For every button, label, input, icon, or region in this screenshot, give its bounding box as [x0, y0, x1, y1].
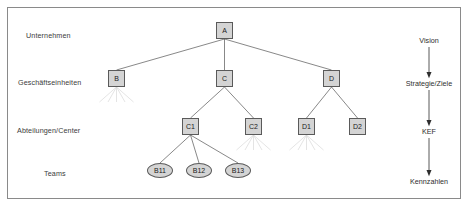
node-c1[interactable]: C1 [182, 118, 199, 135]
node-c2[interactable]: C2 [245, 118, 262, 135]
level-label-geschaeftseinheiten: Geschäftseinheiten [18, 78, 81, 87]
node-b11[interactable]: B11 [147, 163, 173, 178]
level-label-teams: Teams [44, 169, 66, 178]
node-c[interactable]: C [216, 70, 233, 87]
flow-step-strategie[interactable]: Strategie/Ziele [406, 79, 452, 88]
node-b12[interactable]: B12 [186, 163, 212, 178]
figure-caption [18, 205, 318, 214]
node-b13[interactable]: B13 [225, 163, 251, 178]
diagram-canvas: UnternehmenGeschäftseinheitenAbteilungen… [0, 0, 469, 215]
node-d1[interactable]: D1 [298, 118, 315, 135]
node-d[interactable]: D [323, 70, 340, 87]
flow-step-kef[interactable]: KEF [422, 127, 436, 136]
level-label-unternehmen: Unternehmen [26, 31, 71, 40]
node-d2[interactable]: D2 [349, 118, 366, 135]
flow-step-vision[interactable]: Vision [419, 36, 438, 45]
node-b[interactable]: B [108, 70, 125, 87]
flow-step-kennzahlen[interactable]: Kennzahlen [410, 177, 448, 186]
level-label-abteilungen: Abteilungen/Center [17, 126, 80, 135]
node-a[interactable]: A [216, 22, 233, 39]
